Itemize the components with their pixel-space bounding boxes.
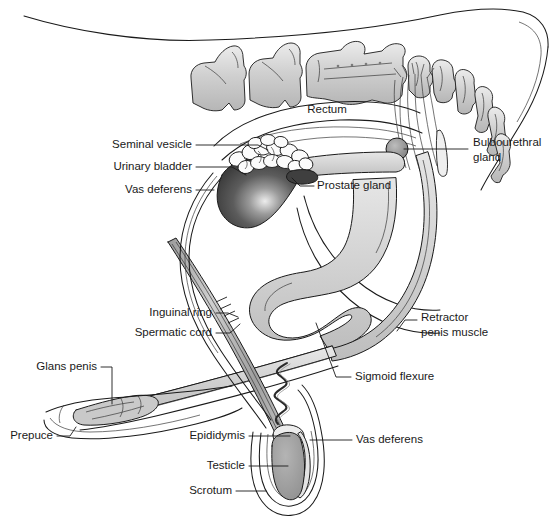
label-inguinal-ring: Inguinal ring xyxy=(149,306,212,318)
label-prepuce: Prepuce xyxy=(10,429,53,441)
label-seminal-vesicle: Seminal vesicle xyxy=(112,138,192,150)
label-bulbourethral-gland: Bulbourethral xyxy=(473,136,541,148)
label-scrotum: Scrotum xyxy=(189,484,232,496)
prostate-body xyxy=(287,170,318,185)
label-bulbourethral-gland-line2: gland xyxy=(473,151,501,163)
label-retractor-penis-muscle-line2: penis muscle xyxy=(421,326,488,338)
label-vas-deferens-lower: Vas deferens xyxy=(356,433,423,445)
label-vas-deferens-upper: Vas deferens xyxy=(125,183,192,195)
label-prostate-gland: Prostate gland xyxy=(317,179,391,191)
label-epididymis: Epididymis xyxy=(189,429,245,441)
label-urinary-bladder: Urinary bladder xyxy=(113,160,192,172)
label-sigmoid-flexure: Sigmoid flexure xyxy=(355,370,434,382)
label-retractor-penis-muscle: Retractor xyxy=(421,311,468,323)
label-spermatic-cord: Spermatic cord xyxy=(135,326,212,338)
label-testicle: Testicle xyxy=(207,459,245,471)
label-rectum: Rectum xyxy=(307,103,347,115)
anatomical-diagram: Seminal vesicle Urinary bladder Vas defe… xyxy=(0,0,553,525)
label-glans-penis: Glans penis xyxy=(36,360,97,372)
